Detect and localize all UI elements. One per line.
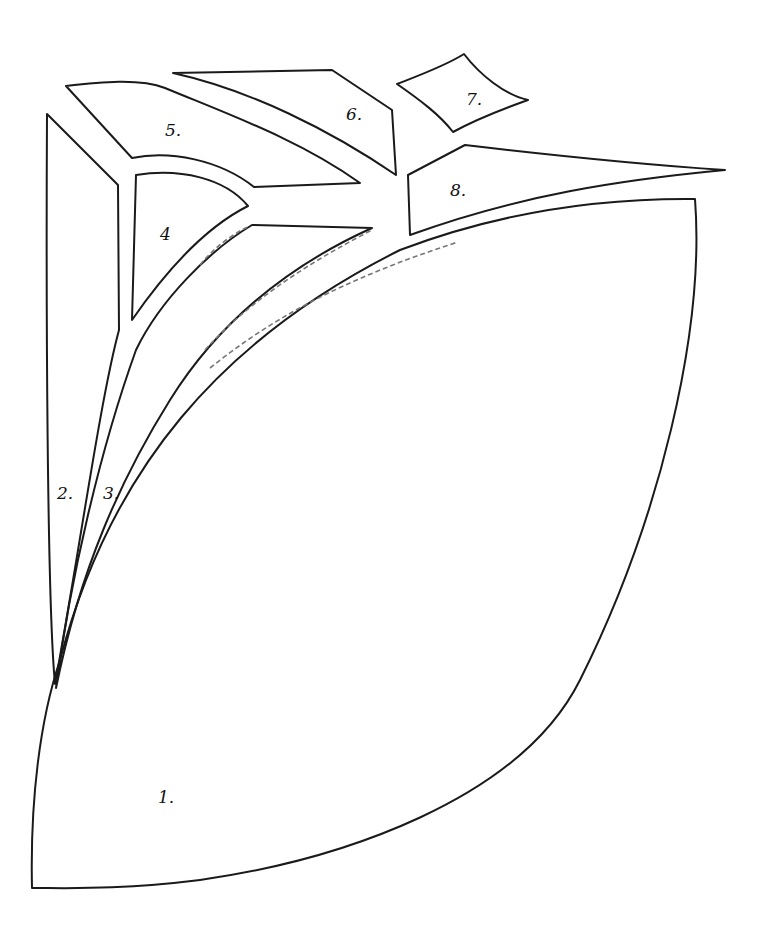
piece-1-outline	[32, 199, 697, 888]
piece-6-outline	[173, 70, 396, 175]
piece-7-label: 7.	[466, 89, 482, 109]
piece-5-label: 5.	[165, 120, 181, 140]
piece-6-label: 6.	[346, 104, 362, 124]
piece-2-outline	[47, 114, 119, 684]
piece-5-outline	[66, 82, 360, 187]
piece-7-outline	[397, 54, 528, 132]
piece-4-outline	[132, 173, 248, 320]
pattern-diagram	[0, 0, 775, 931]
piece-1-label: 1.	[158, 787, 174, 807]
piece-3-label: 3.	[103, 483, 119, 503]
piece-2-label: 2.	[57, 483, 73, 503]
piece-4-label: 4	[160, 224, 171, 244]
fold-line-3	[210, 242, 458, 368]
fold-line-2	[205, 230, 372, 350]
piece-8-label: 8.	[450, 180, 466, 200]
